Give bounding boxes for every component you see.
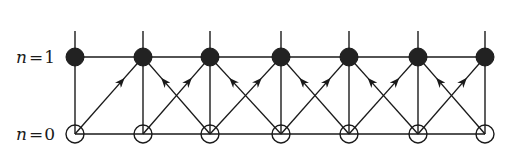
- arrow-7-lower: [349, 82, 396, 134]
- filled-node-icon: [272, 48, 290, 66]
- filled-node-icon: [134, 48, 152, 66]
- lattice-nodes: [66, 48, 494, 143]
- arrow-9-lower: [418, 82, 464, 134]
- arrow-3-lower: [210, 82, 258, 134]
- level-eq-n1: =: [29, 47, 43, 67]
- arrow-1-lower: [143, 82, 189, 134]
- filled-node-icon: [340, 48, 358, 66]
- open-node-icon: [272, 125, 290, 143]
- arrow-4-lower: [233, 82, 281, 134]
- arrow-10-lower: [439, 82, 485, 134]
- open-node-icon: [66, 125, 84, 143]
- level-label-n0: n=0: [16, 124, 55, 144]
- lattice-diagram: n=1 n=0: [0, 0, 512, 158]
- filled-node-icon: [409, 48, 427, 66]
- open-node-icon: [340, 125, 358, 143]
- arrow-6-lower: [303, 82, 349, 134]
- connection-lines: [75, 31, 485, 134]
- arrow-2-lower: [164, 82, 210, 134]
- open-node-icon: [134, 125, 152, 143]
- lattice-diagram-svg: n=1 n=0: [0, 0, 512, 158]
- transition-arrows: [75, 57, 485, 134]
- filled-node-icon: [476, 48, 494, 66]
- level-var-n1: n: [16, 47, 27, 67]
- arrow-5-lower: [281, 82, 327, 134]
- level-eq-n0: =: [29, 124, 43, 144]
- filled-node-icon: [201, 48, 219, 66]
- level-label-n1: n=1: [16, 47, 55, 67]
- level-val-n1: 1: [44, 47, 55, 67]
- open-node-icon: [409, 125, 427, 143]
- level-val-n0: 0: [44, 124, 55, 144]
- arrow-8-lower: [371, 82, 418, 134]
- level-var-n0: n: [16, 124, 27, 144]
- arrow-0-lower: [75, 82, 121, 134]
- open-node-icon: [476, 125, 494, 143]
- open-node-icon: [201, 125, 219, 143]
- filled-node-icon: [66, 48, 84, 66]
